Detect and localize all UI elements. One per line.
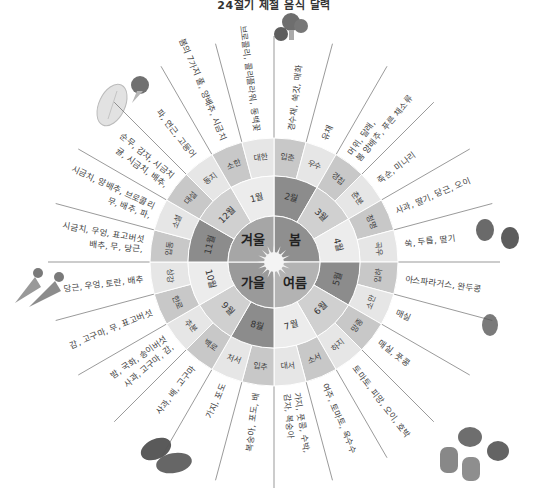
food-list: 죽순, 미나리 [375,150,417,186]
food-text: 가지, 포도 [204,382,228,420]
food-list: 배추, 무, 당근,시금치, 우엉, 표고버섯 [62,220,145,254]
tomato-pepper-icon [440,427,509,481]
food-list: 사과, 딸기, 당근, 오이 [394,176,472,216]
eggplant-icon [137,433,193,476]
food-list: 당근, 우엉, 토란, 배추 [63,274,144,294]
strawberry-icon [476,219,519,249]
food-text: 브로콜리, 콜리플라워, 동백꽃 [238,25,262,132]
solar-term-label: 입하 [372,267,384,283]
solar-term-label: 입춘 [280,153,295,164]
food-text: 죽순, 미나리 [375,150,417,186]
food-list: 복숭아, 포도, 배 [244,392,262,452]
food-text: 사과, 딸기, 당근, 오이 [394,176,472,216]
solar-term-label: 곡우 [373,241,384,256]
food-text: 여주, 토마토, 옥수수 [320,382,358,455]
food-text: 매실 [394,307,413,322]
season-label: 봄 [289,232,301,247]
season-label: 여름 [283,275,307,290]
food-text: 유채 [319,123,334,142]
food-list: 아스파라거스, 완두콩 [404,274,482,294]
food-text: 아스파라거스, 완두콩 [404,274,482,294]
food-list: 파, 연근, 고등어 [154,107,198,160]
food-text: 쑥, 두릅, 딸기 [404,233,456,250]
napa-cabbage-icon [91,80,133,131]
food-text: 당근, 우엉, 토란, 배추 [63,274,144,294]
food-list: 토마토, 피망, 오이, 호박 [351,363,413,439]
food-text: 경수채, 쑥갓, 매화 [286,64,305,132]
food-list: 사과, 고구마, 감,밤, 국화, 송이버섯 [109,334,176,389]
food-text: 토마토, 피망, 오이, 호박 [351,363,413,439]
sun-icon [257,245,291,279]
food-list: 귤, 시금치, 배추,순무, 감자, 시금치 [113,131,175,190]
food-list: 매실 [394,307,413,322]
seasonal-food-wheel: 경수채, 쑥갓, 매화유채머위, 달래,봄 양배추, 푸른 채소류죽순, 미나리… [0,0,548,492]
solar-term-label: 입동 [165,241,176,256]
food-text: 봄의 7가지 풀, 양배추, 시금치 [177,37,228,142]
season-label: 가을 [241,275,265,290]
radish-icon [482,314,498,336]
food-list: 사과, 배, 고구마 [153,363,197,416]
food-list: 봄의 7가지 풀, 양배추, 시금치 [177,37,228,142]
solar-term-label: 대서 [280,361,295,372]
food-text: 매실, 풋콩 [376,338,412,369]
food-text: 파, 연근, 고등어 [154,107,198,160]
season-label: 겨울 [241,232,265,247]
food-list: 브로콜리, 콜리플라워, 동백꽃 [238,25,262,132]
broccoli-icon [274,13,308,41]
broccoli-small-icon [131,76,149,103]
food-list: 가지, 포도 [204,382,228,420]
food-text: 사과, 배, 고구마 [153,363,197,416]
food-list: 가지, 풋콩, 수박,감자, 복숭아 [282,391,312,453]
food-list: 매실, 풋콩 [376,338,412,369]
food-list: 여주, 토마토, 옥수수 [320,382,358,455]
food-list: 경수채, 쑥갓, 매화 [286,64,305,132]
carrot-icon [15,268,64,307]
food-list: 쑥, 두릅, 딸기 [404,233,456,250]
solar-term-label: 상강 [165,268,177,284]
solar-term-label: 입추 [253,361,268,372]
food-list: 유채 [319,123,334,142]
food-text: 복숭아, 포도, 배 [244,392,262,452]
food-list: 머위, 달래,봄 양배추, 푸른 채소류 [346,93,415,163]
